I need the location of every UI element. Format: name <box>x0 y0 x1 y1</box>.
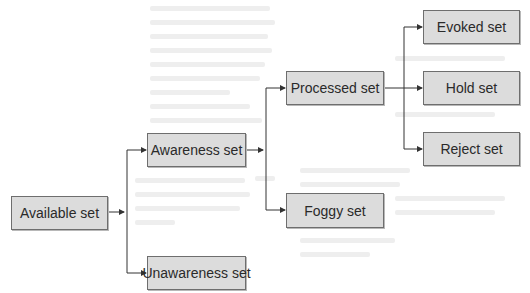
node-processed-set: Processed set <box>286 71 384 105</box>
node-label: Reject set <box>440 141 502 157</box>
node-awareness-set: Awareness set <box>147 133 246 167</box>
node-available-set: Available set <box>11 196 108 230</box>
node-label: Awareness set <box>151 142 243 158</box>
node-label: Foggy set <box>304 203 365 219</box>
node-reject-set: Reject set <box>423 132 520 166</box>
node-unawareness-set: Unawareness set <box>147 256 246 290</box>
node-foggy-set: Foggy set <box>286 193 384 228</box>
node-label: Unawareness set <box>142 265 250 281</box>
node-label: Available set <box>20 205 99 221</box>
node-label: Processed set <box>291 80 380 96</box>
node-evoked-set: Evoked set <box>423 10 520 44</box>
node-hold-set: Hold set <box>423 71 520 105</box>
node-label: Evoked set <box>437 19 506 35</box>
node-label: Hold set <box>446 80 497 96</box>
